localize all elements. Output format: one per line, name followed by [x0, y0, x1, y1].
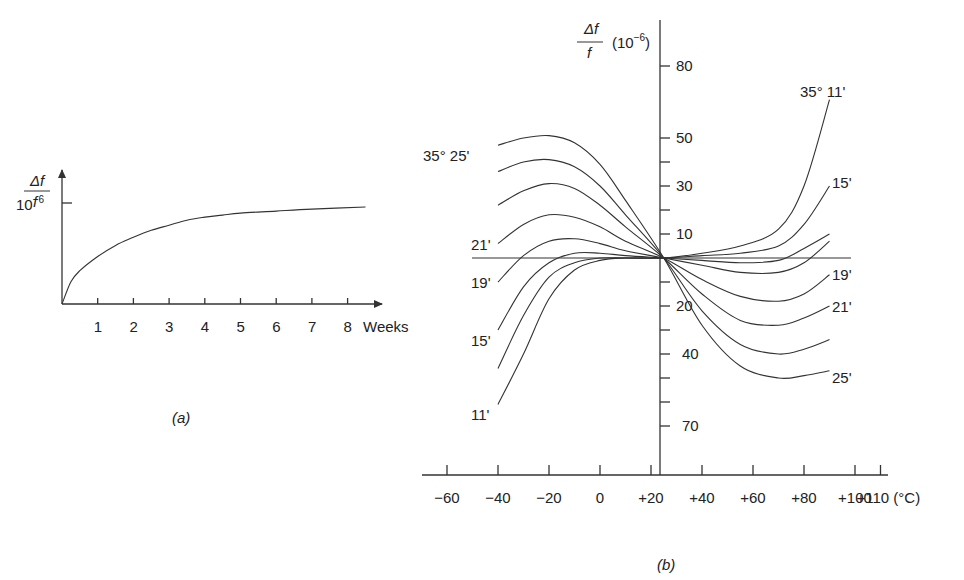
panel-b-ytick-label: 80	[676, 57, 693, 74]
panel-b-xtick-label: −20	[536, 489, 561, 506]
panel-b-ytick-label: 70	[682, 417, 699, 434]
panel-b-xtick-label: −40	[485, 489, 510, 506]
panel-b-xtick-label: +110 (°C)	[857, 489, 921, 506]
panel-b-y-unit: (10−6)	[612, 32, 650, 51]
panel-a-aging-curve	[62, 207, 366, 304]
panel-a-xtick-label: 8	[344, 318, 352, 335]
panel-b-curve	[498, 135, 830, 378]
panel-b-curve	[498, 184, 830, 326]
panel-a-caption: (a)	[172, 409, 190, 426]
label-right-25: 25'	[832, 369, 852, 386]
panel-b-xtick-label: +80	[791, 489, 816, 506]
panel-b-ytick-label: 30	[676, 177, 693, 194]
panel-b-ytick-label: 50	[676, 129, 693, 146]
panel-a-xtick-label: 5	[237, 318, 245, 335]
label-35-11: 35° 11'	[800, 83, 845, 100]
panel-b-x-ticks: −60−40−200+20+40+60+80+100+110 (°C)	[434, 465, 920, 506]
panel-a: 12345678 Δf f 10−6 Weeks (a)	[16, 170, 409, 426]
panel-b-xtick-label: +40	[689, 489, 714, 506]
panel-b-xtick-label: 0	[596, 489, 604, 506]
figure: 12345678 Δf f 10−6 Weeks (a) 80503010204…	[0, 0, 964, 580]
panel-b-y-ticks: 80503010204070	[660, 57, 699, 434]
panel-a-xtick-label: 3	[165, 318, 173, 335]
panel-a-ytick-label: 10−6	[16, 194, 45, 213]
panel-a-xtick-label: 4	[201, 318, 209, 335]
label-right-21: 21'	[832, 298, 852, 315]
label-left-21: 21'	[471, 236, 491, 253]
label-35-25: 35° 25'	[423, 147, 470, 164]
label-left-19: 19'	[471, 274, 491, 291]
panel-b-xtick-label: −60	[434, 489, 459, 506]
label-left-15: 15'	[471, 332, 491, 349]
label-right-19: 19'	[832, 266, 852, 283]
label-right-15: 15'	[832, 174, 852, 191]
panel-b-curve	[498, 186, 830, 368]
panel-b-caption: (b)	[657, 556, 675, 573]
panel-b-ytick-label: 40	[682, 345, 699, 362]
panel-b: 80503010204070 −60−40−200+20+40+60+80+10…	[422, 20, 920, 573]
panel-b-curves	[498, 100, 830, 405]
label-left-11: 11'	[471, 406, 490, 423]
panel-b-ylabel-den: f	[587, 44, 593, 61]
panel-b-curve	[498, 100, 830, 405]
panel-a-xtick-label: 6	[272, 318, 280, 335]
panel-b-ylabel-num: Δf	[583, 20, 600, 37]
panel-b-xtick-label: +60	[740, 489, 765, 506]
panel-b-ytick-label: 10	[676, 225, 693, 242]
panel-a-ylabel-num: Δf	[29, 172, 46, 189]
panel-a-xtick-label: 1	[94, 318, 102, 335]
panel-b-xtick-label: +20	[638, 489, 663, 506]
panel-a-xlabel: Weeks	[363, 318, 409, 335]
panel-a-xtick-label: 7	[308, 318, 316, 335]
panel-a-xtick-label: 2	[129, 318, 137, 335]
